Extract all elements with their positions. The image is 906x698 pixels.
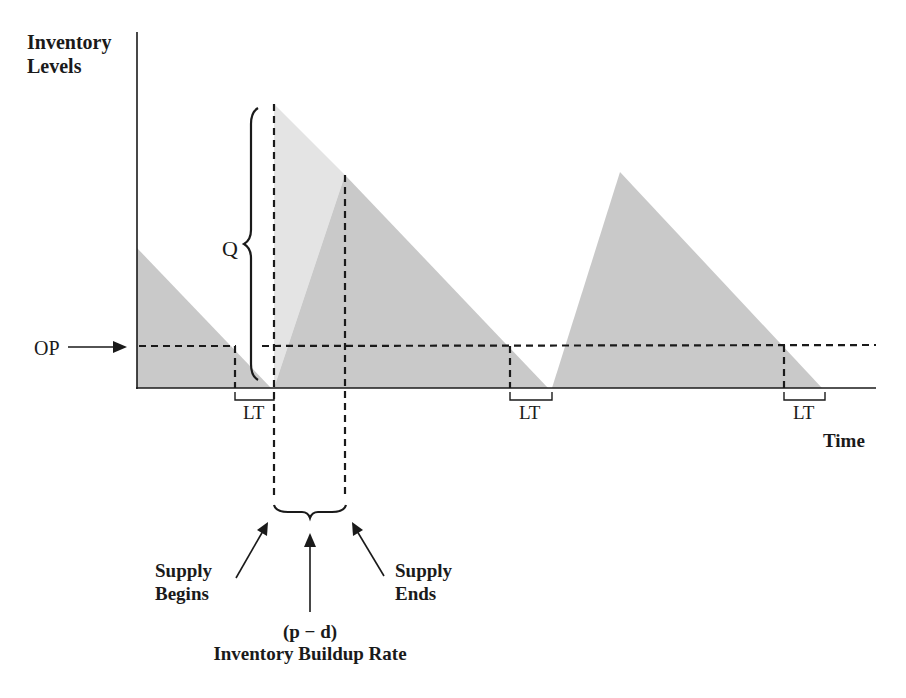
- lead-time-1-bracket: [235, 392, 274, 400]
- lead-time-2-label: LT: [519, 402, 541, 423]
- supply-ends-label-line2: Ends: [395, 583, 436, 604]
- inventory-diagram: Inventory Levels Q OP LT LT LT Time Supp…: [0, 0, 906, 698]
- supply-begins-label-line2: Begins: [155, 583, 209, 604]
- buildup-formula-label: (p − d): [283, 621, 337, 643]
- supply-ends-arrow: [352, 522, 384, 576]
- supply-ends-label-line1: Supply: [395, 560, 453, 581]
- supply-period-brace: [274, 505, 346, 518]
- order-quantity-brace: [244, 108, 258, 380]
- supply-begins-label-line1: Supply: [155, 560, 213, 581]
- lead-time-1-label: LT: [243, 402, 265, 423]
- supply-begins-arrow: [236, 522, 268, 578]
- x-axis-label: Time: [823, 430, 865, 451]
- order-point-arrow: [68, 341, 127, 353]
- buildup-rate-arrow: [304, 533, 316, 612]
- lead-time-2-bracket: [510, 392, 552, 400]
- order-point-label: OP: [34, 337, 60, 359]
- cycle-3-area: [552, 172, 822, 388]
- lead-time-3-bracket: [784, 392, 825, 400]
- order-quantity-label: Q: [222, 236, 238, 261]
- y-axis-label-line1: Inventory: [27, 31, 111, 54]
- y-axis-label-line2: Levels: [27, 55, 82, 77]
- buildup-rate-label: Inventory Buildup Rate: [213, 643, 406, 664]
- lead-time-3-label: LT: [793, 402, 815, 423]
